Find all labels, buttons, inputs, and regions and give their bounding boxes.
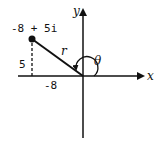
- angle-label: θ: [94, 54, 102, 68]
- x-axis-label: x: [147, 69, 154, 83]
- modulus-label: r: [61, 44, 68, 58]
- point-label: -8 + 5i: [11, 22, 57, 35]
- imaginary-part-label: 5: [19, 58, 26, 71]
- real-part-label: -8: [44, 79, 57, 92]
- y-axis-label: y: [72, 4, 80, 18]
- complex-point: [29, 36, 36, 43]
- complex-plane-diagram: x y -8 + 5i r θ 5 -8: [0, 0, 160, 141]
- modulus-segment: [32, 39, 83, 76]
